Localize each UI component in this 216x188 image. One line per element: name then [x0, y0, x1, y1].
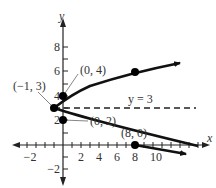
y-tick-label: −2	[47, 162, 60, 176]
y-axis-down-arrow-icon	[60, 177, 66, 186]
y-tick-label: 8	[54, 40, 60, 54]
y-tick-label: 6	[54, 64, 60, 78]
axis-of-symmetry-label: y = 3	[128, 92, 153, 106]
x-tick-label: 6	[114, 150, 120, 164]
x-tick-label: 2	[78, 150, 84, 164]
x-axis-left-arrow-icon	[12, 142, 20, 148]
x-axis-label: x	[206, 131, 213, 145]
point-0-4	[59, 92, 67, 100]
point-0-2-label: (0, 2)	[90, 114, 116, 128]
point-0-2	[59, 116, 67, 124]
point-8-0-label: (8, 0)	[121, 126, 147, 140]
vertex-label: (−1, 3)	[13, 79, 46, 93]
vertex-point	[50, 104, 58, 112]
point-8-6	[131, 68, 139, 76]
graph-canvas: y x −2 2 4 6 8 10 8 6 4 2 −2 y = 3 (−1, …	[0, 0, 216, 188]
x-tick-label: 8	[132, 150, 138, 164]
parabola-graph: y x −2 2 4 6 8 10 8 6 4 2 −2 y = 3 (−1, …	[0, 0, 216, 188]
y-axis-label: y	[58, 9, 65, 23]
point-0-4-label: (0, 4)	[80, 63, 106, 77]
x-tick-label: 10	[150, 150, 162, 164]
x-tick-labels: −2 2 4 6 8 10	[24, 150, 162, 164]
x-tick-label: −2	[24, 150, 37, 164]
x-tick-label: 4	[96, 150, 102, 164]
point-8-0	[131, 141, 139, 149]
